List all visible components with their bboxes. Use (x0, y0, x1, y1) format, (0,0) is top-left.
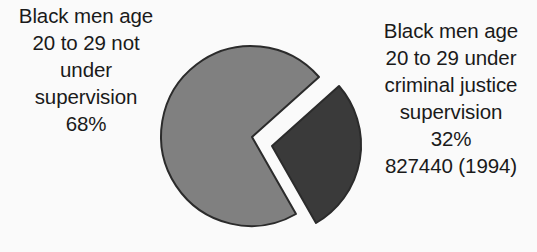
slice-label-left-line-3: under (2, 56, 170, 83)
slice-label-left-line-4: supervision (2, 83, 170, 110)
slice-label-left-line-2: 20 to 29 not (2, 29, 170, 56)
slice-label-right-line-4: supervision (366, 98, 536, 125)
pie-chart-figure: Black men age 20 to 29 not under supervi… (0, 0, 537, 252)
slice-label-left-line-1: Black men age (2, 2, 170, 29)
slice-label-right-line-2: 20 to 29 under (366, 44, 536, 71)
slice-label-right-count: 827440 (1994) (366, 152, 536, 179)
slice-label-right-line-3: criminal justice (366, 71, 536, 98)
slice-label-left: Black men age 20 to 29 not under supervi… (2, 2, 170, 137)
slice-label-right-line-1: Black men age (366, 17, 536, 44)
slice-label-left-percent: 68% (2, 110, 170, 137)
slice-label-right-percent: 32% (366, 125, 536, 152)
slice-label-right: Black men age 20 to 29 under criminal ju… (366, 17, 536, 179)
